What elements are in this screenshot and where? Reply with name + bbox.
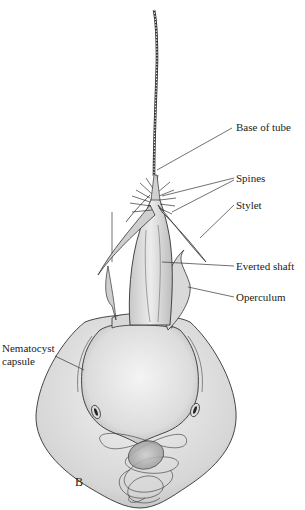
label-stylet: Stylet bbox=[236, 199, 262, 212]
label-everted-shaft: Everted shaft bbox=[236, 260, 294, 273]
tube-base bbox=[151, 175, 160, 200]
label-nematocyst-capsule: Nematocyst capsule bbox=[2, 342, 55, 367]
label-operculum: Operculum bbox=[236, 291, 285, 304]
label-base-of-tube: Base of tube bbox=[236, 121, 291, 134]
label-spines: Spines bbox=[236, 172, 265, 185]
nematocyst-illustration bbox=[0, 0, 305, 510]
panel-letter: B bbox=[75, 475, 83, 490]
